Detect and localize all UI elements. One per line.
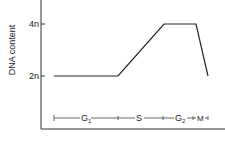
phase-label-m: M <box>197 114 204 123</box>
y-tick-label-2n: 2n <box>29 71 39 81</box>
dna-content-line <box>54 24 208 76</box>
dna-content-chart: 4n 2n DNA content G1 S G2 M <box>0 0 225 141</box>
y-axis-label: DNA content <box>7 24 17 75</box>
phase-label-s: S <box>136 113 142 123</box>
phase-label-g1: G1 <box>81 113 92 124</box>
y-tick-label-4n: 4n <box>29 19 39 29</box>
phase-label-g2: G2 <box>175 113 186 124</box>
